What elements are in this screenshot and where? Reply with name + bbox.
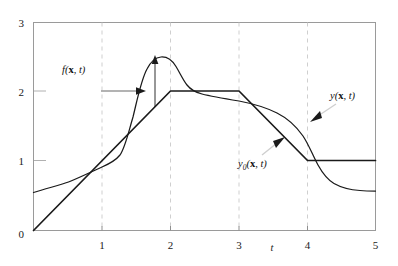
xtick-label-3: 3 (236, 239, 242, 251)
y0-annotation-leader (262, 137, 285, 155)
xtick-label-5: 5 (373, 239, 379, 251)
y0-curve-label: y0(x, t) (237, 158, 267, 172)
series-y-curve (34, 57, 376, 193)
f-label-post: , t) (74, 64, 86, 76)
f-leader-arrow-head (136, 87, 146, 95)
xtick-label-2: 2 (168, 239, 174, 251)
frame-rect (34, 23, 376, 231)
f-annotation (101, 55, 158, 107)
ytick-label-2: 2 (19, 86, 25, 98)
plot-svg: 3 2 1 0 1 2 3 4 5 t f(x, t) y(x, t) y0(x… (0, 0, 398, 266)
grid-lines (102, 23, 308, 231)
chart-figure: 3 2 1 0 1 2 3 4 5 t f(x, t) y(x, t) y0(x… (0, 0, 398, 266)
y0-label-post: , t) (255, 158, 267, 170)
x-axis-label: t (271, 242, 275, 253)
plot-frame (34, 23, 376, 231)
xtick-label-1: 1 (99, 239, 105, 251)
ytick-label-0: 0 (19, 228, 25, 240)
y-annotation-leader (310, 104, 336, 122)
y-axis-ticks (34, 91, 46, 161)
y0-leader-arrow-head (273, 137, 285, 148)
y-leader-arrow-head (310, 111, 322, 122)
y-label-post: , t) (343, 90, 355, 102)
ytick-label-1: 1 (19, 155, 25, 167)
ytick-label-3: 3 (19, 17, 25, 29)
y-curve-label: y(x, t) (329, 90, 356, 102)
f-curve-label: f(x, t) (62, 64, 86, 76)
f-arrow-head-up (152, 55, 159, 64)
xtick-label-4: 4 (305, 239, 311, 251)
x-axis-ticks (102, 226, 308, 231)
